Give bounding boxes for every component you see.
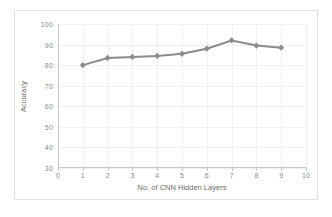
x-axis-tick-mark xyxy=(281,168,282,171)
y-axis-tick-label: 60 xyxy=(45,103,53,110)
y-axis-tick-label: 100 xyxy=(41,21,53,28)
data-point-marker xyxy=(278,45,284,51)
x-axis-tick-mark xyxy=(157,168,158,171)
data-point-marker xyxy=(129,54,135,60)
accuracy-line-series xyxy=(58,24,306,168)
x-axis-tick-label: 9 xyxy=(279,172,283,179)
data-point-marker xyxy=(80,62,86,68)
x-axis-tick-mark xyxy=(83,168,84,171)
x-axis-title: No. of CNN Hidden Layers xyxy=(58,183,306,192)
y-axis-tick-label: 40 xyxy=(45,144,53,151)
x-axis-tick-label: 7 xyxy=(230,172,234,179)
data-point-marker xyxy=(229,37,235,43)
x-axis-tick-mark xyxy=(232,168,233,171)
x-axis-tick-label: 4 xyxy=(155,172,159,179)
data-point-marker xyxy=(253,43,259,49)
data-point-marker xyxy=(105,55,111,61)
x-axis-tick-mark xyxy=(132,168,133,171)
x-axis-tick-label: 2 xyxy=(106,172,110,179)
y-axis-tick-label: 70 xyxy=(45,82,53,89)
chart-frame: Accuracy 30405060708090100 012345678910 … xyxy=(14,10,318,200)
gridline-vertical xyxy=(306,24,307,168)
y-axis-tick-label: 80 xyxy=(45,62,53,69)
x-axis-tick-mark xyxy=(182,168,183,171)
y-axis-tick-label: 90 xyxy=(45,41,53,48)
x-axis-tick-label: 8 xyxy=(254,172,258,179)
x-axis-tick-label: 1 xyxy=(81,172,85,179)
data-point-marker xyxy=(154,53,160,59)
x-axis-tick-mark xyxy=(207,168,208,171)
x-axis-tick-label: 10 xyxy=(302,172,310,179)
x-axis-tick-mark xyxy=(58,168,59,171)
x-axis-tick-mark xyxy=(256,168,257,171)
y-axis-title-label: Accuracy xyxy=(19,81,28,112)
plot-area: 30405060708090100 012345678910 xyxy=(58,24,306,168)
data-point-marker xyxy=(204,46,210,52)
x-axis-title-label: No. of CNN Hidden Layers xyxy=(138,183,227,192)
x-axis-tick-label: 3 xyxy=(130,172,134,179)
x-axis-tick-label: 5 xyxy=(180,172,184,179)
x-axis-tick-label: 0 xyxy=(56,172,60,179)
x-axis-tick-mark xyxy=(306,168,307,171)
x-axis-tick-mark xyxy=(108,168,109,171)
y-axis-tick-label: 50 xyxy=(45,123,53,130)
y-axis-tick-label: 30 xyxy=(45,165,53,172)
x-axis-tick-label: 6 xyxy=(205,172,209,179)
y-axis-title: Accuracy xyxy=(17,24,29,168)
data-point-marker xyxy=(179,51,185,57)
